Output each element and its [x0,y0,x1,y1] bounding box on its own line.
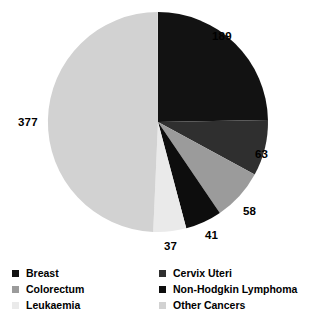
legend-swatch-non-hodgkin-lymphoma [159,286,166,293]
legend-item-label: Breast [26,268,59,279]
legend-item-label: Non-Hodgkin Lymphoma [173,284,297,295]
legend-item: Other Cancers [159,298,297,312]
legend-column-left: BreastColorectumLeukaemia [12,266,84,314]
pie-value-label: 189 [212,30,232,42]
legend-item: Non-Hodgkin Lymphoma [159,282,297,296]
legend-item-label: Leukaemia [26,300,80,311]
legend-item-label: Other Cancers [173,300,245,311]
legend-item: Leukaemia [12,298,84,312]
pie-slice [48,12,158,232]
legend-item-label: Colorectum [26,284,84,295]
pie-value-label: 41 [205,229,218,241]
legend-swatch-breast [12,270,19,277]
legend-swatch-leukaemia [12,302,19,309]
legend-item: Breast [12,266,84,280]
legend-item-label: Cervix Uteri [173,268,232,279]
legend-swatch-other-cancers [159,302,166,309]
legend-swatch-cervix-uteri [159,270,166,277]
pie-value-label: 377 [18,116,38,128]
legend-item: Cervix Uteri [159,266,297,280]
pie-value-label: 37 [164,240,177,252]
legend-column-right: Cervix UteriNon-Hodgkin LymphomaOther Ca… [159,266,297,314]
chart-legend: BreastColorectumLeukaemia Cervix UteriNo… [12,266,312,312]
pie-value-label: 58 [243,205,256,217]
pie-slice-group [48,12,268,232]
legend-swatch-colorectum [12,286,19,293]
pie-slice [158,12,268,122]
pie-value-label: 63 [255,148,268,160]
legend-item: Colorectum [12,282,84,296]
